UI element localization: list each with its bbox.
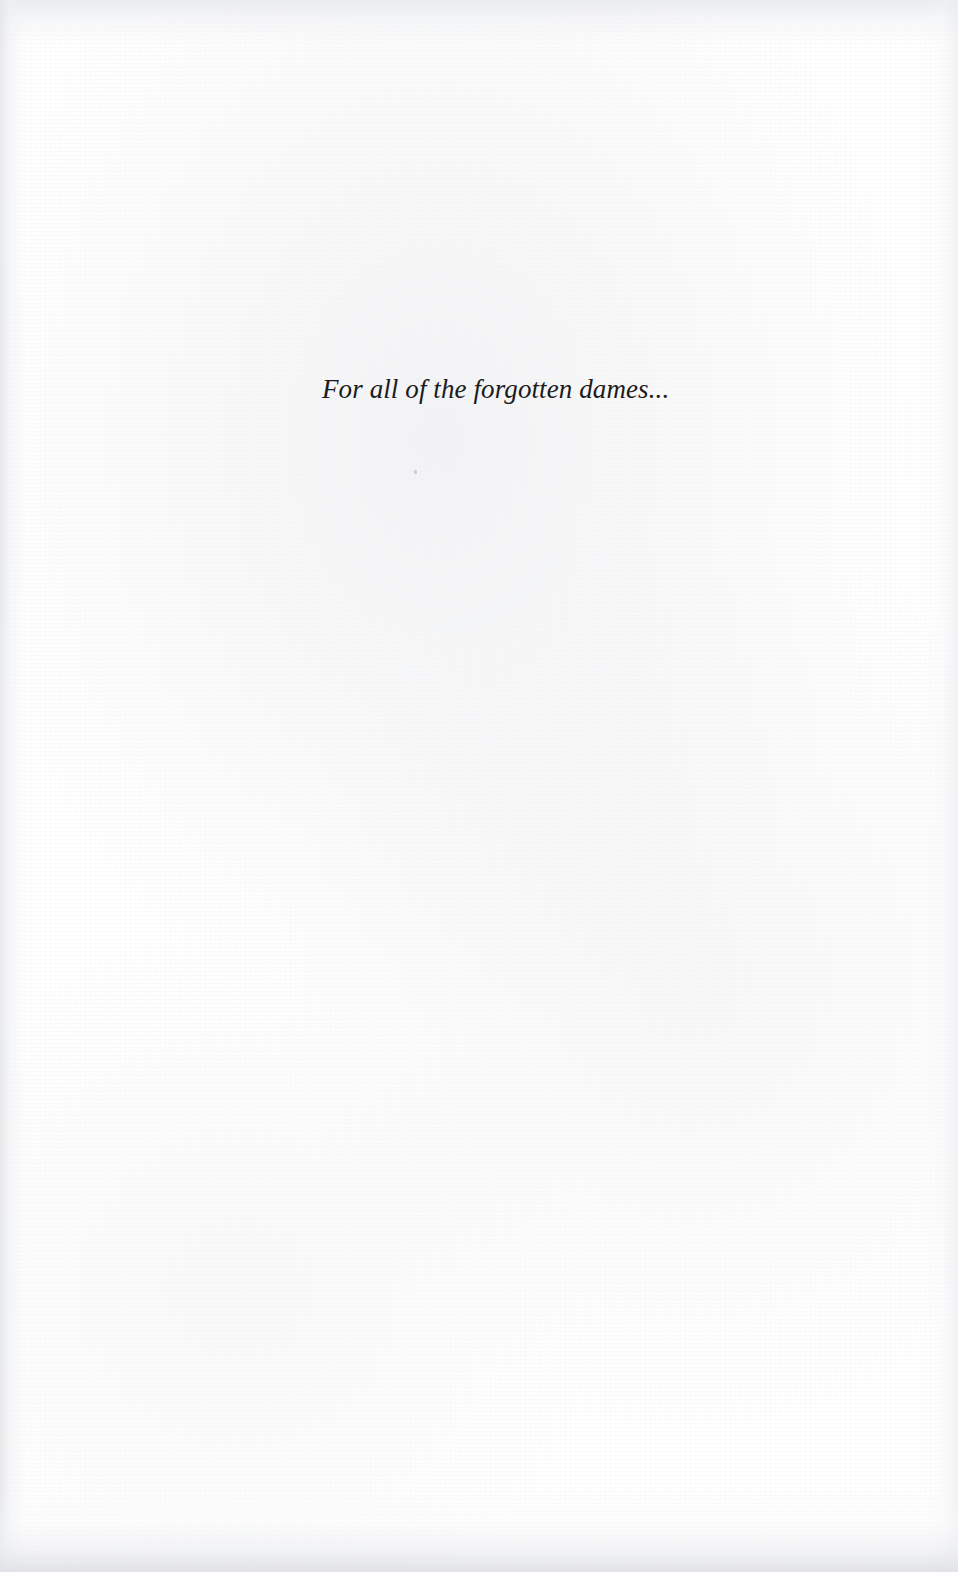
paper-grain-texture [0, 0, 958, 1572]
right-page-edge-shadow [924, 0, 958, 1572]
bottom-page-edge-shadow [0, 1490, 958, 1572]
document-page: For all of the forgotten dames... [0, 0, 958, 1572]
left-page-edge-shadow [0, 0, 26, 1572]
top-page-edge-shadow [0, 0, 958, 44]
dedication-text: For all of the forgotten dames... [322, 375, 669, 404]
scan-speck [414, 470, 417, 474]
